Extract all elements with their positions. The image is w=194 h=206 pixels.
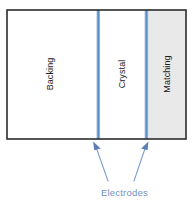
backing-layer-fill xyxy=(7,10,97,139)
electrode-leader-right xyxy=(134,142,148,181)
crystal-layer-fill xyxy=(99,10,145,139)
transducer-diagram: Backing Crystal Matching Electrodes xyxy=(0,0,194,206)
electrode-line-left xyxy=(97,10,101,139)
electrodes-annotation-label: Electrodes xyxy=(101,188,148,198)
matching-layer-fill xyxy=(148,10,186,139)
electrode-leader-left xyxy=(93,142,108,181)
transducer-cross-section-svg xyxy=(0,0,194,206)
electrode-line-right xyxy=(145,10,149,139)
